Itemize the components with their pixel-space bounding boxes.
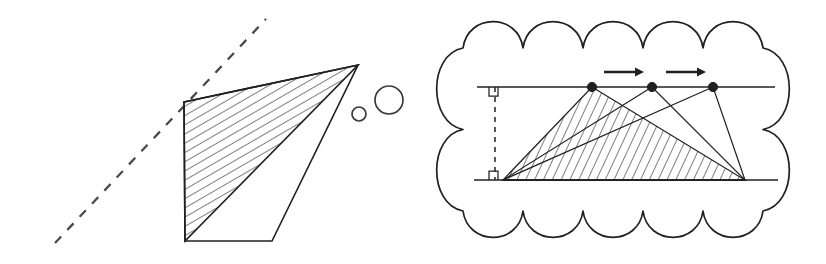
- left-panel-group: [55, 19, 403, 255]
- right-panel-group: [437, 22, 790, 238]
- apex-point-2-dot: [647, 82, 656, 91]
- apex-point-3-dot: [708, 82, 717, 91]
- apex-point-1-dot: [587, 82, 596, 91]
- geometry-figure: [0, 0, 826, 264]
- small-bubble-circle: [352, 107, 366, 121]
- large-bubble-circle: [375, 86, 403, 114]
- figure-root: [0, 0, 826, 264]
